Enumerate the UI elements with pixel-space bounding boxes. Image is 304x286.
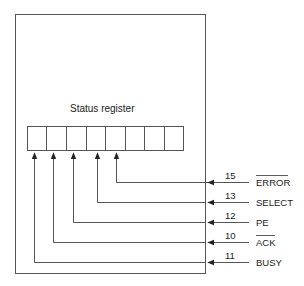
signal-label-pe: PE xyxy=(256,217,269,228)
signal-label-ack: ACK xyxy=(256,237,276,248)
ack-line xyxy=(54,153,206,243)
signal-label-error: ERROR xyxy=(256,177,290,188)
outer-box xyxy=(16,15,206,274)
status-register-diagram: Status register 15 13 12 10 11 xyxy=(0,0,304,286)
pin-number-pe: 12 xyxy=(225,210,236,221)
select-line xyxy=(98,153,206,203)
pin-number-error: 15 xyxy=(225,170,236,181)
pe-line xyxy=(74,153,206,223)
signal-lines xyxy=(35,153,250,263)
register-title: Status register xyxy=(70,103,135,114)
busy-line xyxy=(35,153,206,263)
signal-label-busy: BUSY xyxy=(256,257,283,268)
pin-number-select: 13 xyxy=(225,190,236,201)
signal-label-select: SELECT xyxy=(256,197,293,208)
pin-number-ack: 10 xyxy=(225,230,236,241)
pin-number-busy: 11 xyxy=(225,250,235,261)
register-cells xyxy=(28,127,184,151)
